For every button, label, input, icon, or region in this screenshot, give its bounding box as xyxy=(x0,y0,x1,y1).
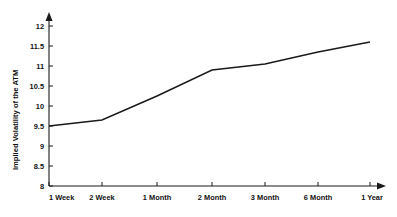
x-axis xyxy=(49,183,386,190)
y-tick-label: 9.5 xyxy=(34,122,44,131)
line-chart: Implied Volatility of the ATM 12 xyxy=(0,0,397,217)
x-tick-label: 6 Month xyxy=(304,193,333,202)
x-axis-arrow-icon xyxy=(377,183,386,190)
y-tick-label: 10 xyxy=(36,102,44,111)
x-axis-tick-labels: 1 Week 2 Week 1 Month 2 Month 3 Month 6 … xyxy=(49,193,383,202)
y-axis-ticks xyxy=(49,26,53,186)
y-tick-label: 10.5 xyxy=(30,82,44,91)
x-axis-ticks xyxy=(49,182,370,186)
y-axis-tick-labels: 12 11.5 11 10.5 10 9.5 9 8.5 8 xyxy=(30,22,44,191)
y-tick-label: 9 xyxy=(40,142,44,151)
y-tick-label: 11 xyxy=(36,62,44,71)
y-axis-title-text: Implied Volatility of the ATM xyxy=(11,70,20,170)
y-axis xyxy=(46,12,53,186)
y-tick-label: 11.5 xyxy=(30,42,44,51)
y-tick-label: 8.5 xyxy=(34,162,44,171)
y-tick-label: 12 xyxy=(36,22,44,31)
chart-container: Implied Volatility of the ATM 12 xyxy=(0,0,397,217)
y-axis-arrow-icon xyxy=(46,12,53,21)
series-line-implied-volatility xyxy=(49,42,370,126)
y-axis-title: Implied Volatility of the ATM xyxy=(11,70,20,170)
x-tick-label: 2 Week xyxy=(89,193,115,202)
x-tick-label: 1 Month xyxy=(143,193,172,202)
x-tick-label: 1 Year xyxy=(361,193,383,202)
y-tick-label: 8 xyxy=(40,182,44,191)
x-tick-label: 1 Week xyxy=(49,193,75,202)
x-tick-label: 2 Month xyxy=(198,193,227,202)
x-tick-label: 3 Month xyxy=(251,193,280,202)
